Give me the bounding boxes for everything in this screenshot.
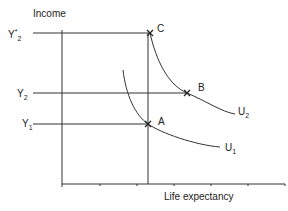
indifference-curve-u2 [150, 33, 235, 114]
y1-label: Y1 [22, 119, 33, 131]
point-a-label: A [158, 117, 165, 127]
curve-u2-sub: 2 [245, 112, 249, 119]
x-axis-label: Life expectancy [164, 192, 234, 202]
y-star-2-sub: 2 [17, 35, 21, 42]
y-star-2-label: Y*2 [8, 28, 21, 42]
y-axis-label: Income [33, 9, 66, 19]
y1-sub: 1 [29, 124, 33, 131]
y-star-2-base: Y [8, 29, 15, 40]
point-b-label: B [198, 83, 205, 93]
y-star-2-sup: * [15, 28, 18, 35]
curve-u1-label: U1 [225, 143, 236, 155]
point-c-label: C [157, 24, 164, 34]
y2-sub: 2 [24, 94, 28, 101]
curve-u1-sub: 1 [232, 148, 236, 155]
y2-base: Y [17, 88, 24, 99]
y1-base: Y [22, 118, 29, 129]
curve-u2-label: U2 [238, 107, 249, 119]
y2-label: Y2 [17, 89, 28, 101]
